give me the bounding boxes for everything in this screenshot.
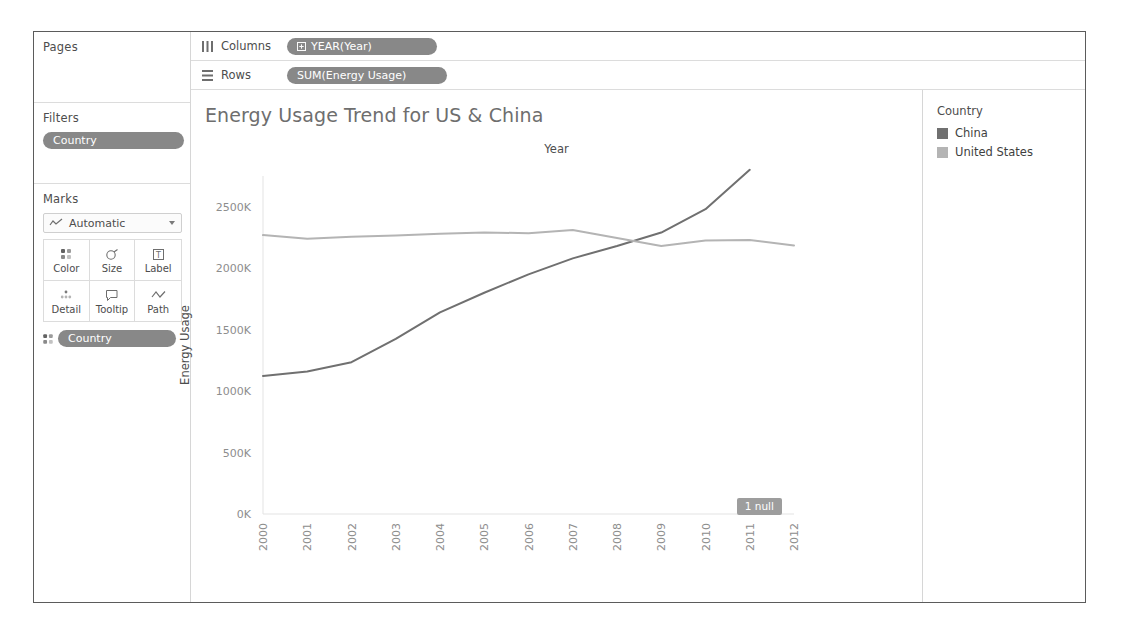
color-dots-icon	[43, 334, 53, 344]
marks-size-label: Size	[102, 264, 123, 274]
y-axis-tick-label: 2500K	[216, 200, 251, 213]
y-axis-tick-label: 0K	[237, 508, 251, 521]
marks-tooltip-label: Tooltip	[96, 305, 128, 315]
marks-label-label: Label	[145, 264, 172, 274]
x-axis-tick-label: 2002	[346, 523, 359, 551]
marks-buttons-row-1: Color Size T Label	[43, 239, 182, 281]
x-axis-tick-label: 2005	[478, 523, 491, 551]
y-axis-tick-label: 1000K	[216, 385, 251, 398]
mark-type-label: Automatic	[69, 217, 125, 230]
legend-swatch	[937, 147, 948, 158]
marks-card: Marks Automatic Color	[34, 184, 190, 602]
rows-icon	[200, 70, 214, 81]
series-line	[263, 170, 750, 376]
legend-item-china[interactable]: China	[937, 126, 1085, 140]
x-axis-tick-label: 2003	[390, 523, 403, 551]
visualization-area: Energy Usage Trend for US & China Year 0…	[191, 90, 1085, 602]
marks-path-label: Path	[147, 305, 169, 315]
marks-color-button[interactable]: Color	[44, 240, 90, 280]
tooltip-bubble-icon	[105, 288, 119, 303]
filters-card-title: Filters	[43, 111, 181, 125]
marks-color-pill-label: Country	[68, 332, 112, 345]
detail-dots-icon	[59, 288, 73, 303]
x-axis-tick-label: 2009	[655, 523, 668, 551]
y-axis-tick-label: 1500K	[216, 323, 251, 336]
x-axis-tick-label: 2001	[301, 523, 314, 551]
label-text-icon: T	[152, 247, 165, 262]
x-axis-tick-label: 2010	[700, 523, 713, 551]
rows-shelf-label: Rows	[221, 68, 287, 82]
marks-detail-button[interactable]: Detail	[44, 281, 90, 321]
mark-type-dropdown[interactable]: Automatic	[43, 213, 182, 233]
filter-pill-label: Country	[53, 134, 97, 147]
marks-card-title: Marks	[43, 192, 181, 206]
pages-card-title: Pages	[43, 40, 181, 54]
columns-shelf-label: Columns	[221, 39, 287, 53]
left-sidebar: Pages Filters Country Marks Automatic	[34, 32, 191, 602]
plot-area: 0K500K1000K1500K2000K2500KEnergy Usage20…	[191, 90, 922, 602]
rows-pill-energy-usage[interactable]: SUM(Energy Usage)	[287, 67, 447, 84]
line-chart-icon	[49, 218, 63, 228]
legend-item-united-states[interactable]: United States	[937, 145, 1085, 159]
legend-item-label: United States	[955, 145, 1033, 159]
legend-swatch	[937, 128, 948, 139]
color-legend: Country China United States	[923, 90, 1085, 602]
pages-card: Pages	[34, 32, 190, 103]
filter-pill-country[interactable]: Country	[43, 132, 184, 149]
null-indicator-badge[interactable]: 1 null	[737, 498, 782, 515]
columns-shelf[interactable]: Columns YEAR(Year)	[191, 32, 1085, 61]
size-circle-icon	[105, 247, 119, 262]
marks-color-label: Color	[53, 264, 79, 274]
marks-label-button[interactable]: T Label	[135, 240, 181, 280]
y-axis-tick-label: 2000K	[216, 262, 251, 275]
svg-text:T: T	[155, 250, 161, 259]
marks-color-pill-country[interactable]: Country	[58, 330, 176, 347]
tableau-worksheet-window: Pages Filters Country Marks Automatic	[33, 31, 1086, 603]
chevron-down-icon	[169, 221, 175, 225]
rows-pill-label: SUM(Energy Usage)	[297, 69, 406, 82]
marks-encoding-row: Country	[43, 330, 181, 347]
rows-shelf[interactable]: Rows SUM(Energy Usage)	[191, 61, 1085, 90]
marks-detail-label: Detail	[52, 305, 81, 315]
x-axis-tick-label: 2006	[523, 523, 536, 551]
series-line	[263, 230, 794, 246]
worksheet-main: Columns YEAR(Year) Rows SUM(Energy Usage…	[191, 32, 1085, 602]
filters-card: Filters Country	[34, 103, 190, 184]
legend-title: Country	[937, 104, 1085, 118]
chart-pane: Energy Usage Trend for US & China Year 0…	[191, 90, 923, 602]
y-axis-tick-label: 500K	[223, 446, 251, 459]
y-axis-title: Energy Usage	[178, 305, 192, 385]
columns-icon	[200, 41, 214, 52]
x-axis-tick-label: 2011	[744, 523, 757, 551]
x-axis-tick-label: 2007	[567, 523, 580, 551]
legend-item-label: China	[955, 126, 988, 140]
x-axis-tick-label: 2012	[788, 523, 801, 551]
marks-path-button[interactable]: Path	[135, 281, 181, 321]
columns-pill-label: YEAR(Year)	[311, 40, 372, 53]
marks-tooltip-button[interactable]: Tooltip	[90, 281, 136, 321]
hierarchy-plus-icon	[297, 42, 306, 51]
x-axis-tick-label: 2008	[611, 523, 624, 551]
marks-buttons-row-2: Detail Tooltip Path	[43, 281, 182, 322]
columns-pill-year[interactable]: YEAR(Year)	[287, 38, 437, 55]
x-axis-tick-label: 2004	[434, 523, 447, 551]
marks-size-button[interactable]: Size	[90, 240, 136, 280]
x-axis-tick-label: 2000	[257, 523, 270, 551]
color-dots-icon	[61, 247, 71, 262]
path-line-icon	[151, 288, 166, 303]
